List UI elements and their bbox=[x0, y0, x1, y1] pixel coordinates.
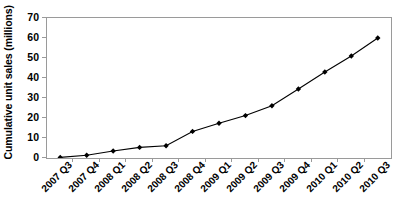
data-point-marker bbox=[296, 86, 301, 91]
y-axis-tick-mark bbox=[42, 157, 46, 158]
y-axis-tick-labels: 010203040506070 bbox=[16, 0, 42, 165]
y-axis-tick-label: 10 bbox=[27, 132, 39, 143]
series-line-cumulative-unit-sales bbox=[60, 38, 378, 157]
x-axis-tick-mark bbox=[364, 158, 365, 162]
x-axis-tick-mark bbox=[258, 158, 259, 162]
y-axis-title: Cumulative unit sales (millions) bbox=[0, 0, 16, 165]
x-axis-tick-labels: 2007 Q32007 Q42008 Q12008 Q22008 Q32008 … bbox=[0, 160, 413, 221]
data-point-marker bbox=[269, 103, 274, 108]
y-axis-title-text: Cumulative unit sales (millions) bbox=[3, 5, 14, 159]
x-axis-tick-mark bbox=[178, 158, 179, 162]
x-axis-tick-mark bbox=[337, 158, 338, 162]
y-axis-tick-label: 20 bbox=[27, 112, 39, 123]
data-point-marker bbox=[243, 113, 248, 118]
data-point-marker bbox=[58, 155, 63, 158]
x-axis-tick-mark bbox=[205, 158, 206, 162]
x-axis-tick-mark bbox=[231, 158, 232, 162]
data-point-marker bbox=[190, 129, 195, 134]
plot-area bbox=[46, 17, 392, 159]
x-axis-tick-mark bbox=[284, 158, 285, 162]
x-axis-tick-mark bbox=[125, 158, 126, 162]
data-point-marker bbox=[322, 69, 327, 74]
data-point-marker bbox=[216, 121, 221, 126]
data-series-svg bbox=[47, 18, 391, 158]
y-axis-tick-mark bbox=[42, 137, 46, 138]
data-point-marker bbox=[110, 148, 115, 153]
y-axis-tick-label: 50 bbox=[27, 52, 39, 63]
x-axis-tick-mark bbox=[152, 158, 153, 162]
y-axis-tick-label: 30 bbox=[27, 92, 39, 103]
data-point-marker bbox=[84, 153, 89, 158]
series-markers bbox=[58, 35, 381, 158]
y-axis-tick-label: 40 bbox=[27, 72, 39, 83]
line-chart: Cumulative unit sales (millions) 0102030… bbox=[0, 0, 413, 221]
y-axis-tick-mark bbox=[42, 57, 46, 58]
y-axis-tick-label: 70 bbox=[27, 12, 39, 23]
y-axis-tick-mark bbox=[42, 77, 46, 78]
y-axis-tick-mark bbox=[42, 37, 46, 38]
y-axis-tick-mark bbox=[42, 97, 46, 98]
data-point-marker bbox=[163, 143, 168, 148]
x-axis-tick-mark bbox=[311, 158, 312, 162]
y-axis-tick-mark bbox=[42, 117, 46, 118]
data-point-marker bbox=[137, 145, 142, 150]
y-axis-tick-mark bbox=[42, 17, 46, 18]
y-axis-tick-label: 60 bbox=[27, 32, 39, 43]
x-axis-tick-mark bbox=[72, 158, 73, 162]
x-axis-tick-mark bbox=[99, 158, 100, 162]
